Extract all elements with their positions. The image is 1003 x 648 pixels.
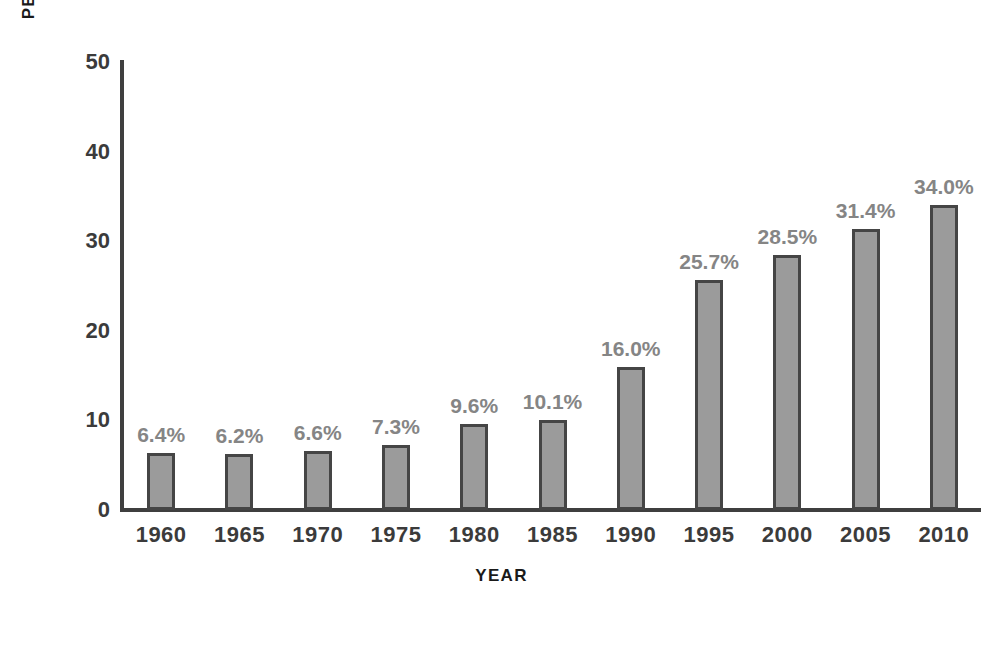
x-axis-title: YEAR <box>0 566 1003 586</box>
bar <box>695 280 723 510</box>
bar-group: 31.4% <box>852 62 880 510</box>
bar-chart: PERCENT OF WASTE RECYCLED 01020304050 6.… <box>0 0 1003 648</box>
bar-group: 6.6% <box>304 62 332 510</box>
x-tick-label: 1990 <box>605 522 656 548</box>
bar <box>147 453 175 510</box>
x-tick-label: 1965 <box>214 522 265 548</box>
x-axis-tick-labels: 1960196519701975198019851990199520002005… <box>120 522 981 556</box>
y-axis-tick-labels: 01020304050 <box>40 0 110 648</box>
bar <box>382 445 410 510</box>
x-tick-label: 2005 <box>840 522 891 548</box>
y-tick-label: 0 <box>50 497 110 523</box>
bar-group: 7.3% <box>382 62 410 510</box>
y-tick-label: 30 <box>50 228 110 254</box>
x-tick-label: 1970 <box>292 522 343 548</box>
bar-group: 6.4% <box>147 62 175 510</box>
bar-value-label: 25.7% <box>679 250 739 274</box>
bar-group: 10.1% <box>539 62 567 510</box>
bar <box>852 229 880 510</box>
bar-group: 6.2% <box>225 62 253 510</box>
x-tick-label: 1960 <box>136 522 187 548</box>
bar <box>617 367 645 510</box>
bar <box>225 454 253 510</box>
bar-value-label: 10.1% <box>523 390 583 414</box>
bar-group: 25.7% <box>695 62 723 510</box>
y-tick-label: 40 <box>50 139 110 165</box>
bar-group: 9.6% <box>460 62 488 510</box>
x-tick-label: 1975 <box>370 522 421 548</box>
bar <box>930 205 958 510</box>
bar-value-label: 6.4% <box>137 423 185 447</box>
bar-value-label: 7.3% <box>372 415 420 439</box>
x-tick-label: 2000 <box>762 522 813 548</box>
bar-value-label: 34.0% <box>914 175 974 199</box>
bar-group: 34.0% <box>930 62 958 510</box>
bar-value-label: 6.6% <box>294 421 342 445</box>
bar-series: 6.4%6.2%6.6%7.3%9.6%10.1%16.0%25.7%28.5%… <box>120 62 981 510</box>
bar-value-label: 6.2% <box>215 424 263 448</box>
bar-value-label: 16.0% <box>601 337 661 361</box>
bar-group: 16.0% <box>617 62 645 510</box>
x-tick-label: 2010 <box>918 522 969 548</box>
bar <box>460 424 488 510</box>
bar-value-label: 28.5% <box>758 225 818 249</box>
bar-value-label: 31.4% <box>836 199 896 223</box>
x-tick-label: 1995 <box>684 522 735 548</box>
y-tick-label: 20 <box>50 318 110 344</box>
bar <box>304 451 332 510</box>
y-tick-label: 50 <box>50 49 110 75</box>
bar <box>539 420 567 510</box>
x-tick-label: 1985 <box>527 522 578 548</box>
y-tick-label: 10 <box>50 407 110 433</box>
bar-group: 28.5% <box>773 62 801 510</box>
x-tick-label: 1980 <box>449 522 500 548</box>
bar-value-label: 9.6% <box>450 394 498 418</box>
bar <box>773 255 801 510</box>
